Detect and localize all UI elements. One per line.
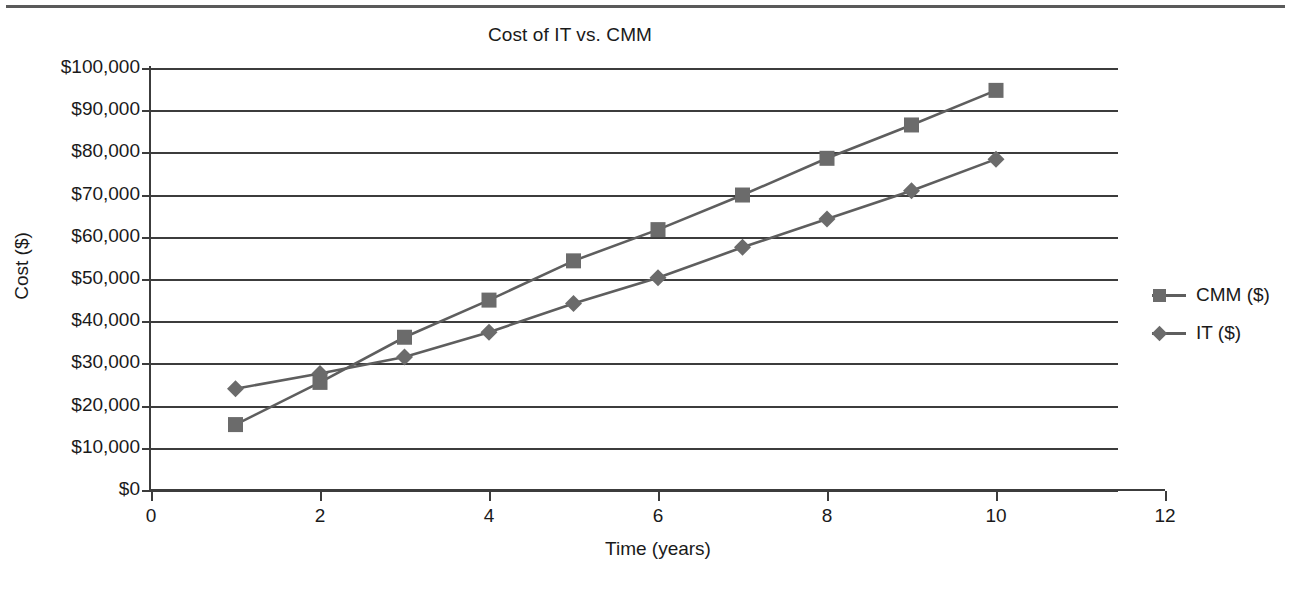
gridline [151,321,1118,323]
x-axis-tick-label: 12 [1135,505,1195,527]
x-axis-tick-label: 10 [966,505,1026,527]
y-axis-tick-label: $90,000 [16,98,140,120]
chart-title: Cost of IT vs. CMM [0,24,1140,46]
legend-item-it[interactable]: IT ($) [1152,314,1291,352]
y-axis-tick-label: $60,000 [16,225,140,247]
legend-item-cmm[interactable]: CMM ($) [1152,276,1291,314]
y-axis-tick-label: $0 [16,478,140,500]
gridline [151,406,1118,408]
x-axis-tick [658,491,660,501]
gridline [151,363,1118,365]
gridline [151,68,1118,70]
y-axis-title: Cost ($) [11,206,33,326]
y-axis-tick-label: $10,000 [16,436,140,458]
gridline [151,279,1118,281]
y-axis-tick-label: $70,000 [16,183,140,205]
legend-item-label: CMM ($) [1186,284,1270,306]
y-axis-tick-label: $50,000 [16,267,140,289]
x-axis-tick [320,491,322,501]
legend-marker-diamond-icon [1152,324,1186,342]
gridline [151,195,1118,197]
y-axis-tick-label: $20,000 [16,394,140,416]
gridline [151,152,1118,154]
x-axis-tick-label: 6 [628,505,688,527]
x-axis-tick-label: 4 [459,505,519,527]
chart-page: Cost of IT vs. CMM $0$10,000$20,000$30,0… [0,0,1291,600]
x-axis-tick [996,491,998,501]
y-axis-tick-label: $80,000 [16,140,140,162]
y-axis-tick-label: $40,000 [16,309,140,331]
gridline [151,237,1118,239]
y-axis-line [149,66,151,492]
x-axis-tick [827,491,829,501]
x-axis-title: Time (years) [151,538,1165,560]
x-axis-tick-label: 2 [290,505,350,527]
page-top-rule [6,5,1285,8]
legend-item-label: IT ($) [1186,322,1241,344]
x-axis-tick-label: 0 [121,505,181,527]
x-axis-tick [151,491,153,501]
gridline [151,448,1118,450]
x-axis-tick-label: 8 [797,505,857,527]
x-axis-tick [1165,491,1167,501]
chart-legend: CMM ($)IT ($) [1152,276,1291,352]
legend-marker-square-icon [1152,286,1186,304]
x-axis-tick [489,491,491,501]
y-axis-tick-label: $100,000 [16,56,140,78]
y-axis-tick-label: $30,000 [16,351,140,373]
gridline [151,110,1118,112]
